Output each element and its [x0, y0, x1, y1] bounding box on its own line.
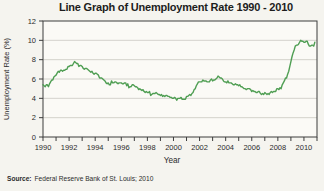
unemployment-line-chart: 0246810121990199219941996199820002002200…: [0, 0, 324, 191]
y-tick-label-2: 2: [32, 113, 36, 122]
x-tick-label-1998: 1998: [139, 143, 156, 152]
source-note: Source:Federal Reserve Bank of St. Louis…: [7, 175, 153, 182]
y-tick-label-6: 6: [32, 75, 36, 84]
y-tick-label-12: 12: [28, 17, 36, 26]
y-tick-label-10: 10: [28, 36, 36, 45]
y-axis-title: Unemployment Rate (%): [2, 37, 11, 120]
x-tick-label-2010: 2010: [296, 143, 313, 152]
source-text: Federal Reserve Bank of St. Louis; 2010: [35, 175, 154, 182]
x-tick-label-1990: 1990: [35, 143, 52, 152]
y-tick-label-8: 8: [32, 55, 36, 64]
figure-unemployment-chart: Line Graph of Unemployment Rate 1990 - 2…: [0, 0, 324, 191]
source-label: Source:: [7, 175, 32, 182]
y-tick-label-0: 0: [32, 133, 36, 142]
x-tick-label-2004: 2004: [217, 143, 234, 152]
x-tick-label-2008: 2008: [270, 143, 287, 152]
y-tick-label-4: 4: [32, 94, 36, 103]
x-axis-title: Year: [164, 156, 181, 165]
x-tick-label-1996: 1996: [113, 143, 130, 152]
x-tick-label-2000: 2000: [165, 143, 182, 152]
x-tick-label-1994: 1994: [87, 143, 104, 152]
x-tick-label-1992: 1992: [61, 143, 78, 152]
x-tick-label-2002: 2002: [191, 143, 208, 152]
x-tick-label-2006: 2006: [243, 143, 260, 152]
